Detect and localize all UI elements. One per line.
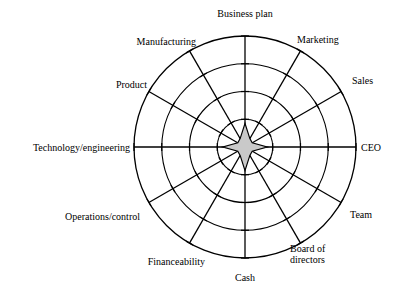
- axis-label-manufacturing: Manufacturing: [137, 36, 196, 47]
- axis-tick: [228, 121, 235, 125]
- axis-label-business-plan: Business plan: [217, 8, 272, 19]
- axis-tick: [186, 49, 193, 53]
- axis-tick: [315, 185, 319, 192]
- axis-tick: [291, 171, 295, 178]
- radar-chart: Business plan Marketing Sales CEO Team B…: [0, 0, 408, 298]
- axis-label-technology-engineering: Technology/engineering: [33, 142, 130, 153]
- axis-tick: [171, 185, 175, 192]
- axis-tick: [186, 241, 193, 245]
- data-series-polygon: [223, 123, 267, 170]
- axis-tick: [200, 73, 207, 77]
- axis-tick: [269, 193, 276, 197]
- axis-tick: [339, 88, 343, 95]
- axis-tick: [255, 169, 262, 173]
- axis-tick: [200, 217, 207, 221]
- axis-tick: [267, 157, 271, 164]
- axis-tick: [195, 171, 199, 178]
- axis-tick: [255, 121, 262, 125]
- axis-tick: [297, 49, 304, 53]
- axis-tick: [283, 217, 290, 221]
- axis-tick: [195, 116, 199, 123]
- axis-label-cash: Cash: [235, 272, 255, 283]
- axis-tick: [219, 157, 223, 164]
- axis-tick: [219, 130, 223, 137]
- axis-tick: [214, 193, 221, 197]
- axis-tick: [291, 116, 295, 123]
- axis-label-product: Product: [116, 79, 147, 90]
- axis-tick: [147, 88, 151, 95]
- axis-tick: [267, 130, 271, 137]
- axis-tick: [283, 73, 290, 77]
- axis-label-marketing: Marketing: [297, 34, 339, 45]
- axis-tick: [147, 199, 151, 206]
- axis-tick: [339, 199, 343, 206]
- axis-label-financeability: Financeability: [148, 256, 205, 267]
- axis-label-board-of-directors: Board of directors: [290, 243, 325, 265]
- axis-tick: [171, 102, 175, 109]
- axis-label-team: Team: [350, 209, 372, 220]
- axis-label-operations-control: Operations/control: [65, 211, 140, 222]
- axis-tick: [269, 97, 276, 101]
- axis-tick: [228, 169, 235, 173]
- axis-tick: [214, 97, 221, 101]
- axis-tick: [315, 102, 319, 109]
- axis-label-ceo: CEO: [361, 142, 381, 153]
- axis-label-sales: Sales: [352, 75, 373, 86]
